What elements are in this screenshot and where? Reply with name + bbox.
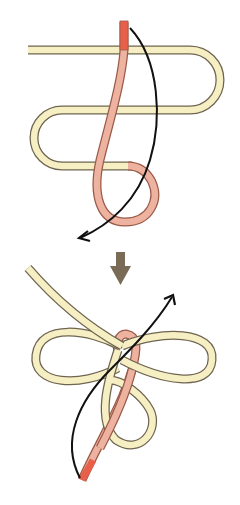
step-1-svg — [0, 0, 240, 250]
motion-arrow-down-icon — [79, 28, 157, 241]
rope-end-marker — [120, 21, 128, 50]
step-2-illustration: Step 2 — [0, 250, 240, 505]
step-1-illustration: Step 1 — [0, 0, 240, 250]
step-2-svg — [0, 250, 240, 505]
standing-rope-loops — [28, 268, 212, 445]
knot-diagram: Knot tying steps Step 1 — [0, 0, 240, 505]
rope-end-marker — [82, 460, 93, 480]
